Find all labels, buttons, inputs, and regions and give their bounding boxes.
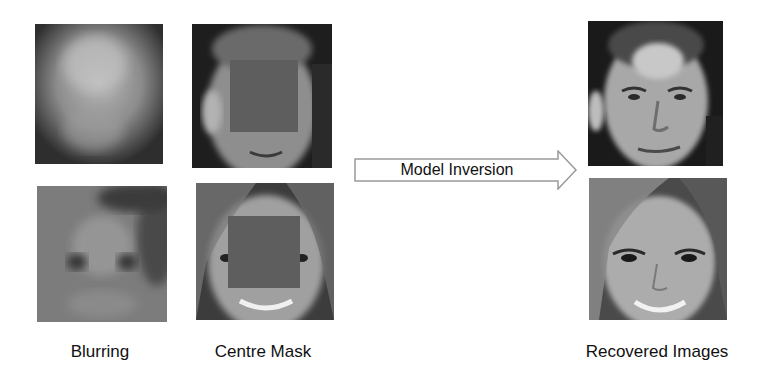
recovered-face-bottom (589, 178, 727, 320)
masked-face-top (192, 24, 332, 168)
arrow-label: Model Inversion (362, 160, 552, 180)
centre-mask-square-bottom (228, 216, 300, 288)
blurred-face-bottom (37, 186, 167, 322)
column-label-blurring: Blurring (40, 342, 160, 362)
blurred-face-top (35, 24, 163, 164)
centre-mask-square-top (230, 60, 298, 132)
figure-canvas: Model Inversion (0, 0, 774, 379)
recovered-face-top (588, 21, 723, 166)
column-label-recovered: Recovered Images (560, 342, 754, 362)
column-label-centre-mask: Centre Mask (193, 342, 333, 362)
masked-face-bottom (196, 183, 334, 320)
